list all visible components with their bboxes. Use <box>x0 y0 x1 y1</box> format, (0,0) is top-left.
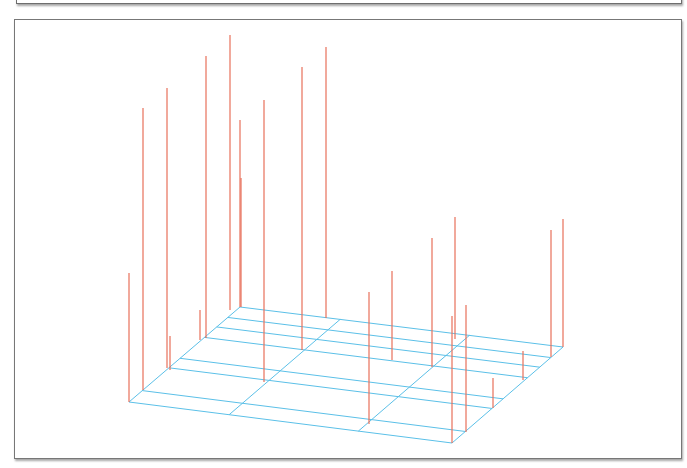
grid-line <box>204 337 527 377</box>
grid-line <box>240 307 563 347</box>
grid-line <box>142 391 465 432</box>
grid-line <box>229 319 340 414</box>
floor-grid <box>129 307 563 443</box>
grid-line <box>129 307 240 402</box>
grid-line <box>180 358 503 399</box>
grid-line <box>228 317 551 357</box>
grid-line <box>217 327 540 367</box>
stem-lines <box>129 35 563 443</box>
grid-line <box>169 368 492 409</box>
grid-line <box>129 402 452 443</box>
stem-plot-3d <box>0 0 687 468</box>
